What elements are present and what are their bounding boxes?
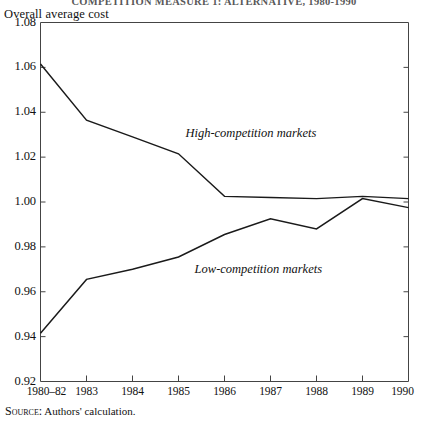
chart-svg [0,0,428,422]
y-tick-label: 1.00 [0,194,36,209]
data-lines [41,64,409,333]
series-label-2: Low-competition markets [195,262,322,277]
x-tick-label: 1990 [373,385,428,397]
y-tick-label: 1.04 [0,104,36,119]
plot-area [0,0,428,422]
y-tick-label: 0.94 [0,329,36,344]
axis-ticks [41,67,409,381]
figure-root: COMPETITION MEASURE 1: ALTERNATIVE, 1980… [0,0,428,422]
y-tick-label: 0.98 [0,239,36,254]
series-label-1: High-competition markets [185,126,316,141]
y-tick-label: 1.08 [0,15,36,30]
source-label: Source: [5,404,42,418]
source-note: Source: Authors' calculation. [5,404,135,419]
source-text: Authors' calculation. [44,405,135,417]
y-tick-label: 0.96 [0,284,36,299]
y-tick-label: 1.06 [0,59,36,74]
y-tick-label: 1.02 [0,149,36,164]
axes [41,23,409,382]
